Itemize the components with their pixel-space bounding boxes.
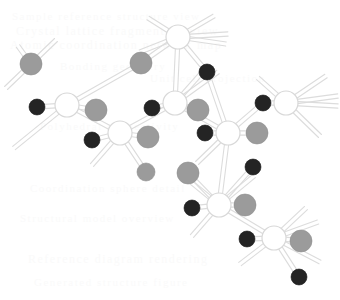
atom-open	[216, 121, 240, 145]
atom-dark	[199, 64, 215, 80]
atom-gray	[85, 99, 107, 121]
atom-dark	[144, 100, 160, 116]
atom-open	[55, 93, 79, 117]
atom-layer	[20, 25, 312, 285]
atom-dark	[255, 95, 271, 111]
atom-gray	[177, 162, 199, 184]
atom-open	[163, 91, 187, 115]
atom-gray	[130, 52, 152, 74]
atom-open	[166, 25, 190, 49]
bond-layer	[5, 14, 339, 278]
atom-gray	[187, 99, 209, 121]
atom-dark	[291, 269, 307, 285]
atom-dark	[29, 99, 45, 115]
atom-gray	[20, 53, 42, 75]
atom-dark	[239, 231, 255, 247]
atom-gray	[290, 230, 312, 252]
atom-open	[262, 226, 286, 250]
atom-open	[108, 121, 132, 145]
atom-dark	[84, 132, 100, 148]
atom-open	[274, 91, 298, 115]
structure-canvas	[0, 0, 340, 300]
atom-gray	[234, 194, 256, 216]
atom-dark	[184, 200, 200, 216]
atom-open	[207, 193, 231, 217]
atom-dark	[245, 159, 261, 175]
atom-gray	[246, 122, 268, 144]
molecular-structure-figure: Sample reference structure viewCrystal l…	[0, 0, 340, 300]
atom-dark	[197, 125, 213, 141]
atom-gray	[137, 163, 155, 181]
atom-gray	[137, 126, 159, 148]
